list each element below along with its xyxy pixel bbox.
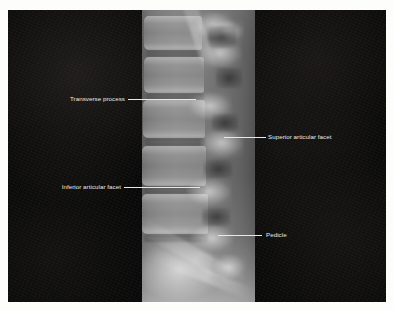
inferior-articular-facet-structure [186,178,232,206]
neural-foramen [204,160,232,178]
vertebral-body [144,57,204,93]
xray-plate: Transverse process Superior articular fa… [8,10,386,302]
pedicle-structure [190,224,234,252]
radiograph-figure: Transverse process Superior articular fa… [0,0,393,310]
disc-space [145,138,205,146]
label-pedicle: Pedicle [266,231,287,239]
leader-line-pedicle [218,235,262,236]
neural-foramen [212,114,238,132]
label-inferior-articular-facet: Inferior articular facet [8,183,121,191]
neural-foramen [208,26,236,48]
label-superior-articular-facet: Superior articular facet [268,133,331,141]
neural-foramen [216,68,242,88]
label-transverse-process: Transverse process [8,95,125,103]
leader-line-inferior-articular-facet [124,187,200,188]
disc-space [146,50,202,57]
leader-line-transverse-process [128,99,196,100]
leader-line-superior-articular-facet [224,137,266,138]
xray-exposed-strip [142,10,255,302]
posterior-element [212,254,246,280]
superior-articular-facet-structure [200,128,244,158]
neural-foramen [202,208,230,226]
